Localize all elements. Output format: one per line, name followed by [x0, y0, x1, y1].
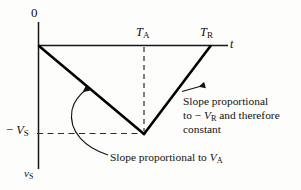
minus-vs-sub: S	[24, 128, 29, 138]
sweep-annotation-text: Slope proportional to	[110, 151, 210, 163]
tick-label-tr-sub: R	[207, 30, 213, 40]
horizontal-axis-label: t	[230, 38, 233, 51]
tick-label-tr-base: T	[200, 25, 207, 39]
tick-label-ta: TA	[136, 26, 149, 41]
waveform-sweep-segment	[39, 46, 144, 134]
minus-vs-sign: −	[6, 123, 13, 137]
retrace-annotation-line1: Slope proportional	[183, 95, 301, 109]
sweep-annotation-base: V	[210, 151, 217, 163]
retrace-slope-annotation: Slope proportional to − VR and therefore…	[183, 95, 301, 137]
retrace-annotation-line2: to − VR and therefore	[183, 109, 301, 124]
vertical-axis-label-sub: S	[29, 172, 33, 181]
horizontal-axis-label-text: t	[230, 37, 233, 51]
retrace-annotation-line3: constant	[183, 123, 301, 137]
origin-label: 0	[31, 6, 38, 20]
retrace-annotation-line2-pre: to	[183, 109, 195, 121]
sweep-annotation-sub: A	[217, 156, 223, 165]
minus-vs-label: − VS	[6, 124, 29, 139]
retrace-annotation-line2-sign: −	[195, 109, 204, 121]
tick-label-ta-base: T	[136, 25, 143, 39]
retrace-annotation-line2-base: V	[204, 109, 211, 121]
tick-label-ta-sub: A	[143, 30, 150, 40]
minus-vs-base: V	[16, 123, 24, 137]
retrace-annotation-arrow	[182, 85, 205, 92]
tick-label-tr: TR	[200, 26, 213, 41]
sweep-slope-annotation: Slope proportional to VA	[110, 151, 223, 165]
vertical-axis-label: vS	[24, 168, 33, 181]
retrace-annotation-line2-post: and therefore	[216, 109, 279, 121]
waveform-figure: 0 TA TR t − VS vS Slope proportional to …	[0, 0, 301, 190]
